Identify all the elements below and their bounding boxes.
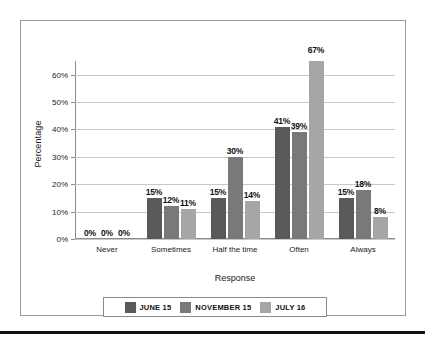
- y-tick-label: 50%: [52, 98, 68, 107]
- legend-label: NOVEMBER 15: [195, 303, 251, 312]
- bar-column[interactable]: 15%: [211, 61, 226, 239]
- bar[interactable]: [147, 198, 162, 239]
- bar-group: 15%12%11%Sometimes: [139, 61, 203, 239]
- bar-group-bars: 15%18%8%: [331, 61, 395, 239]
- y-axis-title: Percentage: [33, 99, 43, 189]
- x-category-label: Never: [96, 245, 117, 254]
- bar-column[interactable]: 0%: [100, 61, 115, 239]
- bar[interactable]: [309, 61, 324, 239]
- bar-value-label: 0%: [84, 228, 96, 238]
- x-category-label: Sometimes: [151, 245, 191, 254]
- bar-group: 15%18%8%Always: [331, 61, 395, 239]
- x-category-label: Often: [289, 245, 309, 254]
- x-category-label: Half the time: [213, 245, 258, 254]
- bar-value-label: 11%: [180, 198, 196, 208]
- bar-column[interactable]: 30%: [228, 61, 243, 239]
- bar-column[interactable]: 15%: [339, 61, 354, 239]
- bar-column[interactable]: 8%: [373, 61, 388, 239]
- bar-value-label: 0%: [118, 228, 130, 238]
- x-category-label: Always: [350, 245, 375, 254]
- bar[interactable]: [211, 198, 226, 239]
- plot-area: 0%10%20%30%40%50%60% 0%0%0%Never15%12%11…: [75, 61, 395, 239]
- bar-column[interactable]: 0%: [117, 61, 132, 239]
- y-tick-label: 20%: [52, 180, 68, 189]
- bar[interactable]: [164, 206, 179, 239]
- bar-value-label: 18%: [355, 179, 371, 189]
- bar-column[interactable]: 15%: [147, 61, 162, 239]
- y-tick-label: 0%: [56, 235, 68, 244]
- bar[interactable]: [339, 198, 354, 239]
- y-tick-mark: [71, 239, 75, 240]
- bar-value-label: 15%: [146, 187, 162, 197]
- bar[interactable]: [275, 127, 290, 239]
- bar-column[interactable]: 0%: [83, 61, 98, 239]
- bar-value-label: 15%: [210, 187, 226, 197]
- legend-swatch-icon: [260, 302, 271, 313]
- bar-value-label: 15%: [338, 187, 354, 197]
- x-axis-title: Response: [75, 273, 395, 283]
- bar[interactable]: [356, 190, 371, 239]
- bar[interactable]: [373, 217, 388, 239]
- bar-column[interactable]: 39%: [292, 61, 307, 239]
- bar-group-bars: 0%0%0%: [75, 61, 139, 239]
- bar-value-label: 14%: [244, 190, 260, 200]
- legend-swatch-icon: [125, 302, 136, 313]
- bar[interactable]: [181, 209, 196, 239]
- y-tick-label: 30%: [52, 152, 68, 161]
- y-tick-label: 10%: [52, 207, 68, 216]
- chart-legend: JUNE 15NOVEMBER 15JULY 16: [103, 297, 327, 317]
- bar[interactable]: [228, 157, 243, 239]
- bar-group: 0%0%0%Never: [75, 61, 139, 239]
- bar[interactable]: [245, 201, 260, 239]
- y-tick-label: 60%: [52, 70, 68, 79]
- bar-value-label: 39%: [291, 121, 307, 131]
- bar-column[interactable]: 41%: [275, 61, 290, 239]
- bar-group: 15%30%14%Half the time: [203, 61, 267, 239]
- bar-group-bars: 41%39%67%: [267, 61, 331, 239]
- legend-label: JULY 16: [275, 303, 305, 312]
- bar-column[interactable]: 12%: [164, 61, 179, 239]
- legend-label: JUNE 15: [140, 303, 172, 312]
- bar-column[interactable]: 18%: [356, 61, 371, 239]
- legend-item[interactable]: JUNE 15: [125, 302, 172, 313]
- chart-figure-frame: Percentage 0%10%20%30%40%50%60% 0%0%0%Ne…: [20, 20, 406, 316]
- bar-group-bars: 15%30%14%: [203, 61, 267, 239]
- y-tick-label: 40%: [52, 125, 68, 134]
- bar-value-label: 41%: [274, 116, 290, 126]
- bar-value-label: 12%: [163, 195, 179, 205]
- bottom-divider-rule: [0, 331, 425, 334]
- bar-value-label: 67%: [308, 45, 324, 55]
- bar-value-label: 0%: [101, 228, 113, 238]
- bar-group: 41%39%67%Often: [267, 61, 331, 239]
- bar-column[interactable]: 11%: [181, 61, 196, 239]
- bar-value-label: 8%: [374, 206, 386, 216]
- legend-item[interactable]: JULY 16: [260, 302, 305, 313]
- bar-column[interactable]: 14%: [245, 61, 260, 239]
- bar[interactable]: [292, 132, 307, 239]
- bar-chart: Percentage 0%10%20%30%40%50%60% 0%0%0%Ne…: [21, 21, 407, 317]
- bar-group-bars: 15%12%11%: [139, 61, 203, 239]
- bar-column[interactable]: 67%: [309, 61, 324, 239]
- bar-value-label: 30%: [227, 146, 243, 156]
- legend-swatch-icon: [180, 302, 191, 313]
- gridline: [75, 239, 395, 240]
- legend-item[interactable]: NOVEMBER 15: [180, 302, 251, 313]
